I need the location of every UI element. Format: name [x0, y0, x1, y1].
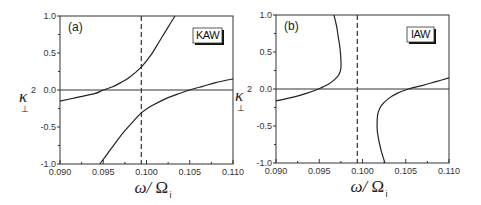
mode-badge-label: IAW [411, 28, 431, 40]
figure: -1.0-0.50.00.51.00.0900.0950.1000.1050.1… [0, 0, 481, 205]
x-tick-label: 0.105 [394, 166, 417, 176]
panel-a: -1.0-0.50.00.51.00.0900.0950.1000.1050.1… [19, 11, 244, 200]
svg-text:Ω: Ω [156, 178, 169, 197]
x-axis-title: ω/Ωi [351, 177, 388, 199]
svg-text:Ω: Ω [372, 177, 385, 196]
x-tick-label: 0.100 [135, 167, 158, 177]
x-axis-title: ω/Ωi [135, 178, 172, 200]
panel-label: (b) [284, 19, 299, 33]
svg-text:2: 2 [247, 84, 252, 94]
dispersion-curve-lower-branch [100, 79, 233, 164]
y-tick-label: 1.0 [259, 10, 272, 20]
svg-text:⊥: ⊥ [21, 104, 29, 114]
y-tick-label: 0.5 [259, 47, 272, 57]
y-tick-label: 0.0 [43, 85, 56, 95]
x-tick-label: 0.090 [49, 167, 72, 177]
y-axis-title: κ⊥2 [235, 84, 252, 113]
panel-b: -1.0-0.50.00.51.00.0900.0950.1000.1050.1… [235, 10, 460, 199]
svg-text:ω/: ω/ [351, 177, 370, 196]
svg-text:⊥: ⊥ [237, 103, 245, 113]
x-tick-label: 0.100 [351, 166, 374, 176]
y-axis-title: κ⊥2 [19, 85, 36, 114]
dispersion-curve-right-branch [377, 78, 449, 163]
x-tick-label: 0.110 [222, 167, 244, 177]
y-tick-label: 0.5 [43, 48, 56, 58]
y-tick-label: 0.0 [259, 84, 272, 94]
x-tick-label: 0.110 [438, 166, 460, 176]
mode-badge-label: KAW [196, 29, 220, 41]
y-tick-label: 1.0 [43, 11, 56, 21]
x-tick-label: 0.095 [308, 166, 331, 176]
svg-text:i: i [170, 190, 172, 200]
x-tick-label: 0.105 [178, 167, 201, 177]
x-tick-label: 0.095 [92, 167, 115, 177]
x-tick-label: 0.090 [265, 166, 288, 176]
y-tick-label: -0.5 [256, 121, 272, 131]
panel-label: (a) [68, 20, 83, 34]
y-tick-label: -0.5 [40, 122, 56, 132]
svg-text:2: 2 [31, 85, 36, 95]
svg-text:i: i [386, 189, 388, 199]
svg-text:ω/: ω/ [135, 178, 154, 197]
